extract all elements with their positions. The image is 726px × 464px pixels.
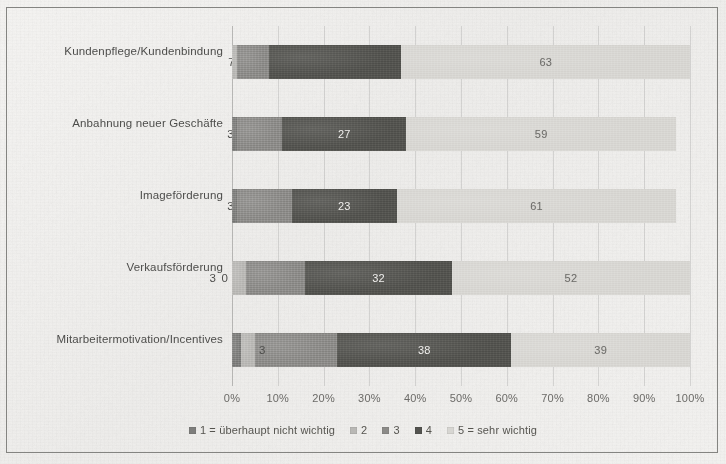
bar-row: Imageförderung32361 <box>232 189 690 223</box>
bar-segment-2[interactable] <box>241 333 255 367</box>
bar-segment-1[interactable] <box>232 333 241 367</box>
x-tick-label: 70% <box>541 392 564 404</box>
gridline-100 <box>690 26 691 386</box>
x-tick-label: 40% <box>404 392 427 404</box>
x-tick-label: 50% <box>450 392 473 404</box>
bar-segment-3[interactable] <box>246 261 306 295</box>
segment-value: 23 <box>338 200 351 212</box>
x-tick-label: 20% <box>312 392 335 404</box>
legend-item[interactable]: 3 <box>382 424 399 436</box>
x-tick-label: 0% <box>224 392 240 404</box>
bar-row: Mitarbeitermotivation/Incentives33839 <box>232 333 690 367</box>
stacked-bar[interactable]: 63 <box>232 45 690 79</box>
bar-segment-5[interactable]: 39 <box>511 333 690 367</box>
bar-row: Kundenpflege/Kundenbindung763 <box>232 45 690 79</box>
category-label: Verkaufsförderung <box>126 261 223 273</box>
x-tick-label: 30% <box>358 392 381 404</box>
bar-segment-3[interactable] <box>255 333 337 367</box>
legend-item[interactable]: 4 <box>415 424 432 436</box>
bar-segment-3[interactable] <box>237 117 283 151</box>
segment-value: 59 <box>535 128 548 140</box>
segment-value: 52 <box>565 272 578 284</box>
legend-item[interactable]: 2 <box>350 424 367 436</box>
category-label: Kundenpflege/Kundenbindung <box>64 45 223 57</box>
stacked-bar[interactable]: 3839 <box>232 333 690 367</box>
x-tick-label: 60% <box>495 392 518 404</box>
bar-segment-4[interactable] <box>269 45 402 79</box>
category-label: Imageförderung <box>140 189 223 201</box>
segment-value: 38 <box>418 344 431 356</box>
legend-label: 4 <box>426 424 432 436</box>
segment-value: 27 <box>338 128 351 140</box>
x-tick-label: 80% <box>587 392 610 404</box>
plot-area: Kundenpflege/Kundenbindung763Anbahnung n… <box>232 26 690 386</box>
legend-label: 3 <box>393 424 399 436</box>
segment-value-outside: 0 <box>222 272 228 284</box>
bar-segment-4[interactable]: 38 <box>337 333 511 367</box>
legend-label: 2 <box>361 424 367 436</box>
bar-segment-2[interactable] <box>232 261 246 295</box>
bar-segment-3[interactable] <box>237 45 269 79</box>
stacked-bar[interactable]: 2759 <box>232 117 690 151</box>
legend-label: 1 = überhaupt nicht wichtig <box>200 424 335 436</box>
stacked-bar[interactable]: 2361 <box>232 189 690 223</box>
bar-segment-5[interactable]: 61 <box>397 189 676 223</box>
x-tick-label: 10% <box>266 392 289 404</box>
bar-segment-5[interactable]: 63 <box>401 45 690 79</box>
bar-segment-5[interactable]: 52 <box>452 261 690 295</box>
x-axis: 0%10%20%30%40%50%60%70%80%90%100% <box>232 392 690 408</box>
bar-row: Anbahnung neuer Geschäfte32759 <box>232 117 690 151</box>
legend-item[interactable]: 5 = sehr wichtig <box>447 424 537 436</box>
bar-segment-4[interactable]: 23 <box>292 189 397 223</box>
legend-item[interactable]: 1 = überhaupt nicht wichtig <box>189 424 335 436</box>
bar-row: Verkaufsförderung033252 <box>232 261 690 295</box>
segment-value: 39 <box>594 344 607 356</box>
segment-value: 63 <box>539 56 552 68</box>
legend-swatch-icon <box>189 427 196 434</box>
category-label: Mitarbeitermotivation/Incentives <box>56 333 223 345</box>
chart-legend: 1 = überhaupt nicht wichtig2345 = sehr w… <box>0 424 726 436</box>
x-tick-label: 90% <box>633 392 656 404</box>
segment-value-outside: 3 <box>210 272 216 284</box>
segment-value: 32 <box>372 272 385 284</box>
segment-value-outside: 3 <box>259 344 265 356</box>
stacked-bar[interactable]: 3252 <box>232 261 690 295</box>
category-label: Anbahnung neuer Geschäfte <box>72 117 223 129</box>
bar-segment-4[interactable]: 32 <box>305 261 452 295</box>
legend-swatch-icon <box>350 427 357 434</box>
legend-swatch-icon <box>447 427 454 434</box>
x-tick-label: 100% <box>676 392 705 404</box>
bar-segment-5[interactable]: 59 <box>406 117 676 151</box>
legend-swatch-icon <box>415 427 422 434</box>
bar-segment-4[interactable]: 27 <box>282 117 406 151</box>
bar-segment-3[interactable] <box>237 189 292 223</box>
legend-label: 5 = sehr wichtig <box>458 424 537 436</box>
segment-value: 61 <box>530 200 543 212</box>
legend-swatch-icon <box>382 427 389 434</box>
